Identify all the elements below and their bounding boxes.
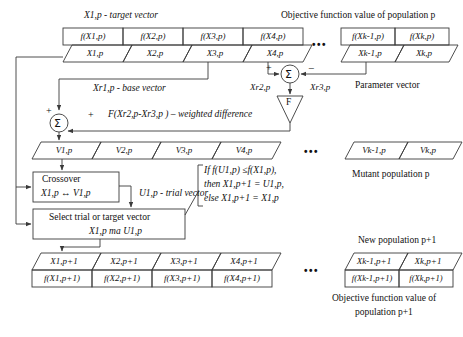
new-parameter-cell: X1,p+1 [34,257,94,266]
target-vector-label: X1,p - target vector [84,11,158,21]
minus-sign-xr3: − [308,63,314,74]
summation-1-symbol: Σ [285,68,292,81]
ellipsis-new: ••• [304,265,319,276]
new-parameter-cell: X2,p+1 [94,257,154,266]
new-fitness-cell-tail: f(Xk-1,p+1) [345,274,399,283]
new-fitness-cell: f(X1,p+1) [32,274,92,283]
amplification-factor-label: F [286,98,291,108]
ellipsis-top: ••• [312,39,327,50]
fitness-cell: f(X2,p) [123,32,183,41]
objective-bottom-line2: population p+1 [355,308,413,318]
new-population-label: New population p+1 [358,236,436,246]
parameter-cell: X1,p [65,49,125,58]
xr3-label: Xr3,p [310,83,330,92]
parameter-cell: X2,p [125,49,185,58]
new-fitness-cell: f(X2,p+1) [92,274,152,283]
new-fitness-cell: f(X3,p+1) [152,274,212,283]
crossover-box-line2: X1,p ↔ V1,p [41,189,91,199]
mutant-cell-tail: Vk,p [401,146,455,155]
mutant-cell-tail: Vk-1,p [347,146,401,155]
select-box-line2: X1,p та U1,p [89,227,142,237]
condition-line2: then X1,p+1 = U1,p, [204,180,284,190]
new-parameter-cell-tail: Xk,p+1 [401,257,455,266]
parameter-cell: X3,p [185,49,245,58]
trial-vector-label: U1,p - trial vector [139,189,208,199]
objective-top-label: Objective function value of population p [281,11,435,21]
mutant-cell: V4,p [214,146,274,155]
crossover-box-line1: Crossover [42,175,81,185]
new-fitness-cell-tail: f(Xk,p+1) [399,274,453,283]
figure-canvas: X1,p - target vector Objective function … [0,0,463,337]
mutant-population-label: Mutant population p [352,170,430,180]
parameter-cell-tail: Xk-1,p [343,49,397,58]
condition-line3: else X1,p+1 = X1,p [204,194,279,204]
fitness-cell: f(X3,p) [183,32,243,41]
parameter-vector-label: Parameter vector [355,81,420,91]
fitness-cell: f(X4,p) [243,32,303,41]
new-parameter-cell: X3,p+1 [154,257,214,266]
base-vector-label: Xr1,p - base vector [93,84,166,94]
fitness-cell-tail: f(Xk-1,p) [341,32,395,41]
new-parameter-cell: X4,p+1 [214,257,274,266]
parameter-cell-tail: Xk,p [397,49,451,58]
fitness-cell-tail: f(Xk,p) [395,32,449,41]
plus-sign-diff: + [88,110,94,120]
new-parameter-cell-tail: Xk-1,p+1 [347,257,401,266]
fitness-cell: f(X1,p) [63,32,123,41]
summation-2-symbol: Σ [54,117,61,130]
parameter-cell: X4,p [245,49,305,58]
plus-sign-base: + [46,106,52,116]
xr2-label: Xr2,p [250,83,270,92]
select-box-line1: Select trial or target vector [49,213,150,223]
mutant-cell: V3,p [154,146,214,155]
mutant-cell: V2,p [94,146,154,155]
condition-line1: If f(U1,p) ≤f(X1,p), [204,166,277,176]
objective-bottom-line1: Objective function value of [332,294,436,304]
ellipsis-mutant: ••• [304,146,319,157]
plus-sign-xr2: + [266,63,272,73]
new-fitness-cell: f(X4,p+1) [212,274,272,283]
weighted-difference-label: F(Xr2,p-Xr3,p ) – weighted difference [108,110,252,120]
mutant-cell: V1,p [34,146,94,155]
